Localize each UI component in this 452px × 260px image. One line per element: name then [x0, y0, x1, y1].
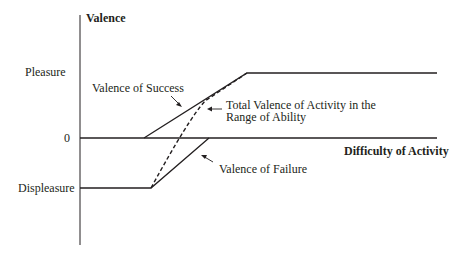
arrow-failure — [201, 155, 213, 162]
failure-line — [80, 138, 209, 188]
x-axis-label: Difficulty of Activity — [344, 144, 449, 158]
y-axis-label: Valence — [86, 11, 126, 25]
annotation-valence-of-success: Valence of Success — [92, 81, 184, 95]
arrow-total — [207, 107, 222, 112]
annotation-total-valence-line2: Range of Ability — [226, 110, 306, 124]
tick-label-zero: 0 — [64, 131, 70, 145]
annotation-valence-of-failure: Valence of Failure — [219, 162, 307, 176]
tick-label-pleasure: Pleasure — [25, 65, 66, 79]
valence-diagram — [0, 0, 452, 260]
arrow-success — [171, 96, 182, 107]
tick-label-displeasure: Displeasure — [18, 181, 75, 195]
